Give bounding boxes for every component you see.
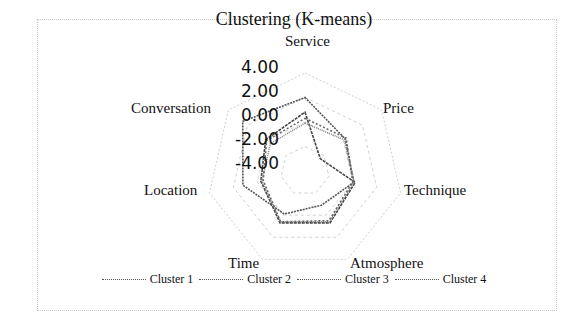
axis-label-atmosphere: Atmosphere — [350, 255, 423, 272]
axis-label-location: Location — [144, 182, 197, 199]
axis-label-technique: Technique — [404, 182, 466, 199]
axis-label-service: Service — [285, 33, 330, 50]
axis-label-price: Price — [383, 100, 414, 117]
legend-swatch — [395, 279, 439, 280]
tick-label: -4.00 — [235, 153, 279, 173]
legend-label: Cluster 3 — [345, 272, 389, 287]
legend-label: Cluster 4 — [443, 272, 487, 287]
axis-label-conversation: Conversation — [131, 100, 211, 117]
tick-label: -2.00 — [235, 129, 279, 149]
tick-label: 2.00 — [241, 81, 279, 101]
legend-label: Cluster 1 — [150, 272, 194, 287]
legend: Cluster 1 Cluster 2 Cluster 3 Cluster 4 — [0, 272, 588, 287]
legend-item: Cluster 1 — [102, 272, 194, 287]
legend-swatch — [102, 279, 146, 280]
tick-label: 4.00 — [241, 57, 279, 77]
legend-item: Cluster 3 — [297, 272, 389, 287]
legend-item: Cluster 2 — [199, 272, 291, 287]
legend-swatch — [199, 279, 243, 280]
grid-ring — [281, 147, 329, 194]
legend-label: Cluster 2 — [247, 272, 291, 287]
axis-label-time: Time — [228, 255, 259, 272]
legend-swatch — [297, 279, 341, 280]
tick-label: 0.00 — [241, 105, 279, 125]
legend-item: Cluster 4 — [395, 272, 487, 287]
